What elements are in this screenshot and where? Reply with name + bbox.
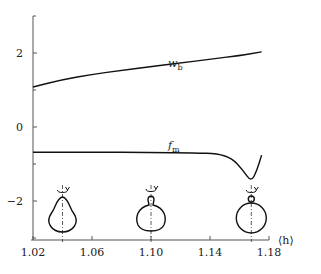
- y-tick-label: −2: [7, 195, 23, 208]
- series-labels: wbfm: [167, 57, 183, 154]
- x-tick-label: 1.02: [21, 246, 46, 259]
- x-tick-label: 1.10: [139, 246, 164, 259]
- pinched-shape-icon: [236, 185, 266, 242]
- x-tick-label: 1.06: [80, 246, 105, 259]
- series-label-f_m: fm: [167, 139, 180, 154]
- y-tick-label: 2: [16, 47, 23, 60]
- x-axis-label: ⟨h⟩: [278, 234, 294, 247]
- necked-shape-icon: [137, 185, 165, 242]
- pear-shape-icon: [49, 185, 76, 242]
- x-tick-label: 1.14: [198, 246, 223, 259]
- shape-icons: [49, 185, 266, 242]
- series-f_m: [33, 152, 262, 179]
- series-lines: [33, 52, 262, 179]
- y-tick-label: 0: [16, 121, 23, 134]
- series-w_b: [33, 52, 262, 87]
- x-tick-label: 1.18: [257, 246, 282, 259]
- chart: 1.021.061.101.141.1820−2 wbfm ⟨h⟩: [0, 0, 321, 274]
- axes: [31, 16, 269, 240]
- series-label-w_b: wb: [168, 57, 183, 72]
